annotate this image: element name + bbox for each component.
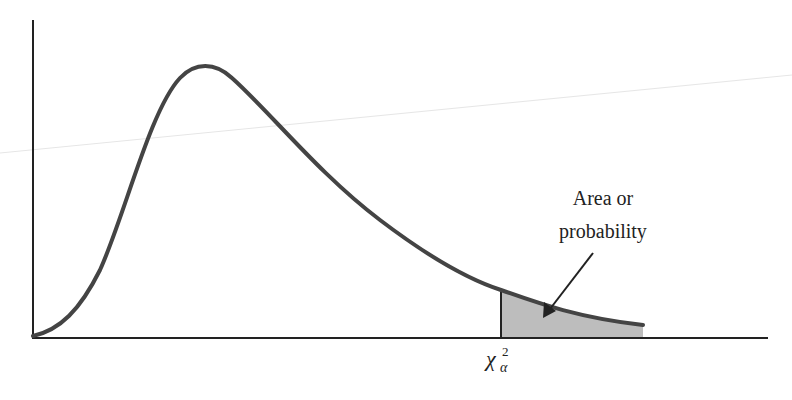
density-curve bbox=[33, 66, 643, 336]
annotation-line-1: Area or bbox=[573, 187, 634, 209]
critical-value-symbol: χ bbox=[484, 346, 497, 371]
annotation-arrow bbox=[550, 253, 593, 309]
annotation-line-2: probability bbox=[559, 220, 647, 243]
critical-value-superscript: 2 bbox=[502, 344, 509, 359]
critical-value-subscript: α bbox=[500, 360, 508, 375]
scan-artifact-line bbox=[0, 75, 792, 153]
chi-square-diagram: Area or probability χ α 2 bbox=[0, 0, 792, 400]
